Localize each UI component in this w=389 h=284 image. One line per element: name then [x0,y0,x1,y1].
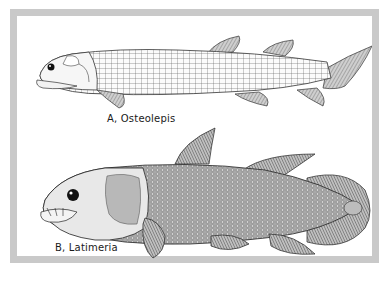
caption-a: A, Osteolepis [107,113,175,124]
caption-b: B, Latimeria [55,242,118,253]
figure-panel: A, Osteolepis [17,16,372,256]
osteolepis-illustration [27,28,372,113]
latimeria-illustration [25,124,372,259]
figure-frame: A, Osteolepis [10,9,379,263]
